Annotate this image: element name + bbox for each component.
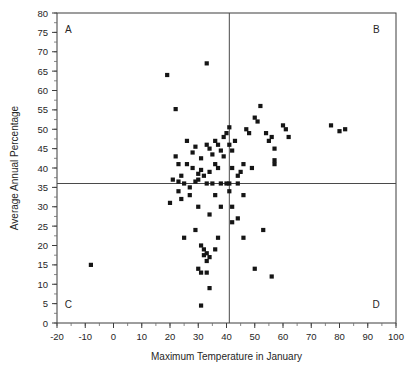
data-point: [264, 131, 268, 135]
x-axis-title: Maximum Temperature in January: [151, 351, 302, 362]
data-point: [213, 193, 217, 197]
y-tick-label: 45: [37, 143, 48, 154]
data-point: [230, 220, 234, 224]
data-point: [287, 135, 291, 139]
data-point: [205, 181, 209, 185]
data-point: [176, 189, 180, 193]
data-point: [165, 73, 169, 77]
data-point: [199, 168, 203, 172]
y-tick-label: 70: [37, 46, 48, 57]
quadrant-label: C: [65, 299, 72, 310]
data-point: [176, 179, 180, 183]
data-point: [182, 181, 186, 185]
data-point: [233, 139, 237, 143]
data-point: [270, 274, 274, 278]
data-point: [205, 259, 209, 263]
y-tick-label: 75: [37, 27, 48, 38]
data-point: [191, 150, 195, 154]
data-point: [267, 139, 271, 143]
data-point: [179, 174, 183, 178]
y-tick-label: 40: [37, 163, 48, 174]
data-point: [261, 228, 265, 232]
data-point: [329, 123, 333, 127]
data-point: [89, 263, 93, 267]
data-point: [236, 216, 240, 220]
data-point: [176, 162, 180, 166]
data-point-layer: [89, 61, 347, 307]
data-point: [250, 166, 254, 170]
data-point: [174, 154, 178, 158]
y-tick-label: 5: [43, 298, 48, 309]
data-point: [207, 255, 211, 259]
data-point: [227, 125, 231, 129]
data-point: [193, 179, 197, 183]
data-point: [219, 205, 223, 209]
data-point: [227, 189, 231, 193]
data-point: [179, 197, 183, 201]
data-point: [247, 131, 251, 135]
data-point: [253, 267, 257, 271]
data-point: [216, 166, 220, 170]
data-point: [272, 162, 276, 166]
data-point: [216, 143, 220, 147]
data-point: [284, 127, 288, 131]
axis-layer: -20-100102030405060708090100051015202530…: [37, 8, 404, 343]
data-point: [174, 107, 178, 111]
quadrant-label: A: [65, 24, 72, 35]
data-point: [270, 135, 274, 139]
data-point: [199, 156, 203, 160]
data-point: [205, 143, 209, 147]
data-point: [213, 247, 217, 251]
data-point: [230, 205, 234, 209]
x-tick-label: 100: [388, 331, 404, 342]
y-tick-label: 25: [37, 221, 48, 232]
data-point: [227, 143, 231, 147]
data-point: [168, 201, 172, 205]
data-point: [216, 236, 220, 240]
data-point: [196, 172, 200, 176]
y-tick-label: 20: [37, 240, 48, 251]
x-tick-label: -20: [50, 331, 64, 342]
data-point: [241, 162, 245, 166]
x-tick-label: 80: [334, 331, 345, 342]
y-tick-label: 50: [37, 124, 48, 135]
y-tick-label: 30: [37, 201, 48, 212]
x-tick-label: -10: [78, 331, 92, 342]
reference-line-layer: [57, 13, 396, 323]
data-point: [205, 251, 209, 255]
y-tick-label: 80: [37, 8, 48, 19]
data-point: [210, 152, 214, 156]
y-tick-label: 10: [37, 279, 48, 290]
data-point: [255, 119, 259, 123]
y-tick-label: 0: [43, 318, 48, 329]
x-tick-label: 50: [249, 331, 260, 342]
data-point: [185, 139, 189, 143]
x-tick-label: 20: [165, 331, 176, 342]
y-tick-label: 15: [37, 259, 48, 270]
data-point: [191, 166, 195, 170]
data-point: [236, 181, 240, 185]
data-point: [272, 158, 276, 162]
x-tick-label: 90: [362, 331, 373, 342]
data-point: [224, 131, 228, 135]
y-axis-title: Average Annual Percentage: [9, 105, 20, 230]
data-point: [230, 148, 234, 152]
x-tick-label: 70: [306, 331, 317, 342]
quadrant-label: B: [373, 24, 380, 35]
data-point: [213, 162, 217, 166]
data-point: [227, 181, 231, 185]
x-tick-label: 60: [278, 331, 289, 342]
data-point: [210, 181, 214, 185]
data-point: [239, 170, 243, 174]
quadrant-label: D: [373, 299, 380, 310]
data-point: [205, 61, 209, 65]
data-point: [219, 148, 223, 152]
data-point: [222, 135, 226, 139]
data-point: [171, 178, 175, 182]
data-point: [199, 243, 203, 247]
y-tick-label: 65: [37, 66, 48, 77]
data-point: [241, 236, 245, 240]
data-point: [193, 228, 197, 232]
data-point: [196, 205, 200, 209]
data-point: [219, 181, 223, 185]
